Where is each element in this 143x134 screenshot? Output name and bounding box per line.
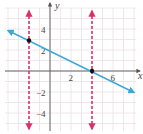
- grid: [5, 8, 136, 131]
- x-axis-label: x: [137, 70, 143, 81]
- y-tick-label: 4: [41, 25, 46, 35]
- x-tick-label: 2: [69, 73, 74, 83]
- coordinate-plane: x y 2 6 4 2 −2 −4: [0, 0, 143, 134]
- y-axis-label: y: [54, 0, 60, 11]
- y-tick-label: −2: [36, 88, 46, 98]
- point-4-0: [90, 69, 94, 73]
- y-tick-label: −4: [36, 109, 46, 119]
- point-neg2-3: [27, 38, 31, 42]
